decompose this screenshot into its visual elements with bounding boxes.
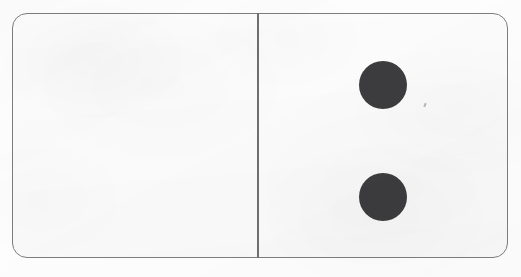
pip-grid-right: [259, 14, 507, 257]
pip-icon: [359, 173, 407, 221]
domino-tile[interactable]: [12, 13, 508, 258]
pip-grid-left: [13, 14, 257, 257]
pip-icon: [359, 61, 407, 109]
domino-half-right[interactable]: [259, 14, 507, 257]
domino-scene: [0, 0, 521, 277]
domino-half-left[interactable]: [13, 14, 257, 257]
